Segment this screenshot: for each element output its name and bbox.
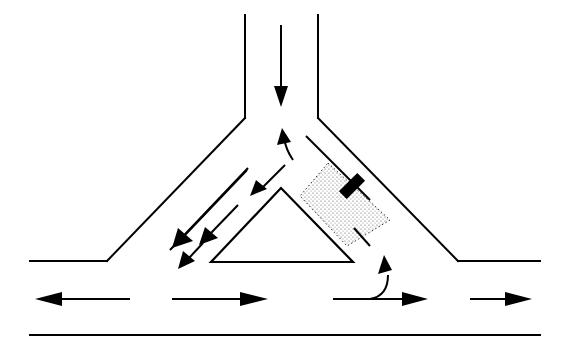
arrow-shaft [189, 243, 203, 258]
arrowhead-icon [505, 292, 532, 306]
arrowhead-icon [274, 86, 288, 107]
arrowhead-icon [240, 292, 268, 306]
u-turn-up-arrow [370, 255, 392, 299]
arrowhead-icon [378, 255, 392, 274]
arrow-shaft [211, 205, 238, 233]
arrowhead-icon [35, 292, 62, 306]
arrowhead-icon [277, 128, 291, 145]
arrow-shaft [185, 170, 247, 235]
eastbound-far-arrow [470, 292, 532, 306]
westbound-arrow [35, 292, 130, 306]
junction-diagram [0, 0, 564, 347]
traffic-arrows [35, 25, 532, 306]
arrow-shaft [262, 165, 285, 188]
arrowhead-icon [402, 292, 428, 306]
arrow-shaft [370, 275, 388, 299]
eastbound-left-arrow [172, 292, 268, 306]
arrowhead-icon [250, 180, 267, 196]
road-edges [30, 15, 540, 335]
left-turn-lower-arrow [178, 243, 203, 269]
merge-up-arrow [277, 128, 293, 160]
southbound-arrow [274, 25, 288, 107]
